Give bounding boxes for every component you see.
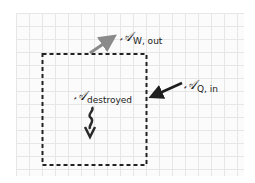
work-out-arrow xyxy=(90,38,112,53)
heat-in-label: 𝒜Q, in xyxy=(184,76,218,92)
control-volume-boundary xyxy=(43,54,147,165)
availability-symbol: 𝒜 xyxy=(120,29,132,44)
destroyed-subscript: destroyed xyxy=(87,95,132,105)
work-out-label: 𝒜W, out xyxy=(120,28,162,44)
destroyed-squiggle-arrow xyxy=(89,107,92,129)
heat-in-subscript: Q, in xyxy=(197,84,218,94)
heat-in-arrow xyxy=(153,83,182,96)
availability-symbol: 𝒜 xyxy=(74,88,86,103)
work-out-subscript: W, out xyxy=(133,36,162,46)
destroyed-label: 𝒜destroyed xyxy=(74,87,132,103)
availability-symbol: 𝒜 xyxy=(184,77,196,92)
diagram-canvas: 𝒜W, out 𝒜Q, in 𝒜destroyed xyxy=(0,0,255,183)
